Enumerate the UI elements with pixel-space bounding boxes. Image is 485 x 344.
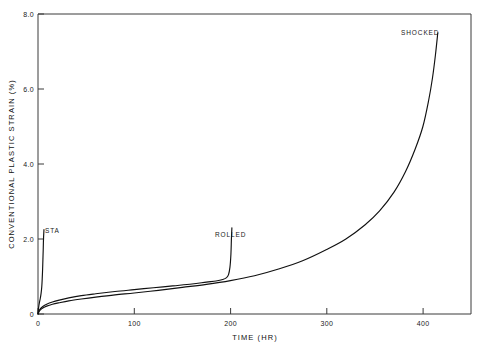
x-axis-ticks <box>38 308 423 314</box>
x-axis-title: TIME (HR) <box>232 333 278 342</box>
y-tick-label-2: 2.0 <box>23 236 34 243</box>
series-label-sta: STA <box>45 227 60 234</box>
series-annotations: STA ROLLED SHOCKED <box>45 29 439 238</box>
plot-figure: 0 2.0 4.0 6.0 8.0 0 100 200 300 400 TIME… <box>0 0 485 344</box>
y-tick-label-8: 8.0 <box>23 11 34 18</box>
x-tick-label-100: 100 <box>128 320 141 327</box>
plot-frame <box>38 14 471 314</box>
y-axis-title: CONVENTIONAL PLASTIC STRAIN (%) <box>7 79 16 249</box>
series-label-shocked: SHOCKED <box>401 29 439 36</box>
curve-shocked <box>38 33 438 314</box>
x-tick-label-300: 300 <box>321 320 334 327</box>
x-tick-label-0: 0 <box>36 320 40 327</box>
series-label-rolled: ROLLED <box>215 231 246 238</box>
y-tick-label-4: 4.0 <box>23 161 34 168</box>
x-tick-label-200: 200 <box>224 320 237 327</box>
y-tick-label-6: 6.0 <box>23 86 34 93</box>
curve-sta <box>38 230 44 314</box>
y-axis-tick-labels: 0 2.0 4.0 6.0 8.0 <box>23 11 34 318</box>
y-tick-label-0: 0 <box>30 311 34 318</box>
x-axis-tick-labels: 0 100 200 300 400 <box>36 320 429 327</box>
x-tick-label-400: 400 <box>417 320 430 327</box>
data-curves <box>38 33 438 314</box>
chart-page: 0 2.0 4.0 6.0 8.0 0 100 200 300 400 TIME… <box>0 0 485 344</box>
